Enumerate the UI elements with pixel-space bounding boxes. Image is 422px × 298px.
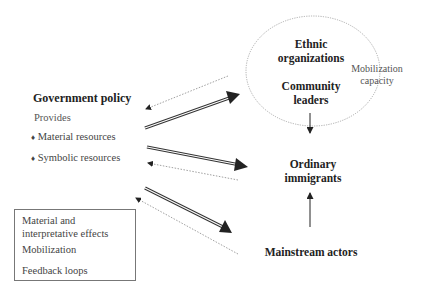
organizations-label: organizations [278,52,344,64]
legend-material-label-2: interpretative effects [22,228,108,240]
legend-material-label-1: Material and [22,215,75,227]
feedback-loop-from-ordinary-immigrants [148,163,238,180]
mobilization-capacity-label-1: Mobilization [351,63,403,74]
legend-feedback-label: Feedback loops [22,265,88,277]
material-resources-item: ♦ Material resources [31,131,116,142]
ethnic-label: Ethnic [295,38,328,50]
immigrants-label: immigrants [285,172,342,184]
diamond-bullet-icon: ♦ [31,133,35,142]
mainstream-actors-label: Mainstream actors [265,246,358,258]
symbolic-resources-item: ♦ Symbolic resources [31,152,120,163]
legend-mobilization-label: Mobilization [22,244,76,256]
legend-box: Material and interpretative effects Mobi… [14,209,136,281]
ordinary-label: Ordinary [290,158,337,170]
material-effects-arrow-to-ethnic-orgs [145,91,240,128]
diamond-bullet-icon: ♦ [31,154,35,163]
community-label: Community [282,80,341,92]
government-policy-title: Government policy [33,91,131,106]
leaders-label: leaders [293,94,328,106]
material-effects-arrow-to-ordinary-immigrants [147,147,248,171]
mobilization-capacity-label-2: capacity [360,75,393,86]
provides-label: Provides [34,112,71,123]
